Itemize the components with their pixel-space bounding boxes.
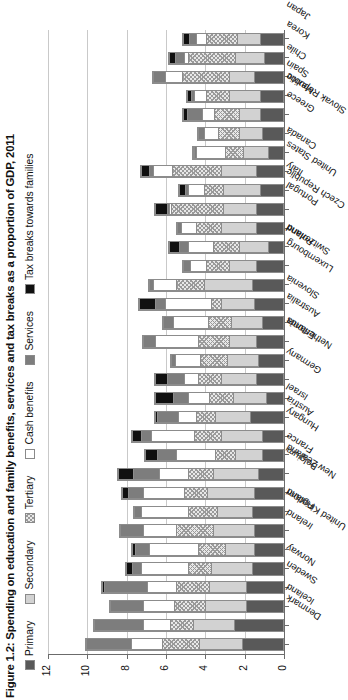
legend-label: Tax breaks towards families (24, 154, 35, 280)
bar-segment-services (179, 242, 189, 253)
bar-segment-primary (266, 393, 283, 404)
bar-segment-services (167, 374, 184, 385)
legend-item-tertiary: Tertiary (24, 476, 35, 524)
bar-segment-tax (118, 469, 134, 480)
bar-luxembourg (138, 298, 284, 311)
bar-segment-cash (178, 412, 195, 423)
bar-segment-tax (155, 393, 172, 404)
value-axis-tick-label: 12 (41, 665, 52, 676)
bar-segment-cash (196, 147, 225, 158)
legend-label: Cash benefits (24, 382, 35, 445)
legend-label: Tertiary (24, 476, 35, 510)
bar-segment-tertiary (204, 185, 223, 196)
bar-mexico (182, 108, 284, 121)
bar-iceland (93, 619, 284, 632)
category-label-korea: Korea (284, 19, 312, 42)
legend-item-primary: Primary (24, 621, 35, 670)
legend-swatch-cash-icon (25, 449, 35, 459)
bar-segment-cash (155, 336, 198, 347)
gridline (48, 30, 49, 654)
bar-france (117, 468, 284, 481)
bar-segment-tertiary (198, 336, 229, 347)
bar-segment-cash (188, 242, 213, 253)
bar-segment-tertiary (188, 469, 213, 480)
bar-segment-primary (260, 109, 283, 120)
bar-chile (152, 71, 284, 84)
bar-segment-tertiary (198, 374, 221, 385)
bar-segment-primary (254, 544, 283, 555)
bar-segment-secondary (229, 72, 254, 83)
bar-segment-cash (151, 431, 194, 442)
bar-denmark (85, 638, 284, 651)
bar-segment-cash (141, 507, 188, 518)
bar-segment-tertiary (174, 601, 205, 612)
category-axis-labels: DenmarkIcelandSwedenNorwayUnited Kingdom… (284, 30, 330, 654)
bar-segment-primary (256, 374, 283, 385)
legend-swatch-tax-icon (25, 284, 35, 294)
bar-segment-cash (153, 280, 176, 291)
bar-segment-cash (190, 261, 205, 272)
bar-segment-cash (188, 393, 209, 404)
bar-segment-primary (260, 91, 283, 102)
legend-item-services: Services (24, 311, 35, 364)
legend-swatch-primary-icon (25, 660, 35, 670)
bar-segment-services (86, 639, 131, 650)
bar-segment-secondary (213, 469, 258, 480)
bar-estonia (170, 354, 284, 367)
bar-segment-primary (254, 488, 283, 499)
legend-swatch-secondary-icon (25, 594, 35, 604)
bar-segment-primary (264, 53, 283, 64)
bar-segment-tax (155, 374, 167, 385)
bar-segment-cash (165, 299, 212, 310)
bar-czech-republic (168, 241, 284, 254)
bar-segment-primary (258, 469, 283, 480)
bar-segment-primary (268, 242, 283, 253)
bar-segment-services (175, 53, 185, 64)
bar-segment-cash (188, 185, 203, 196)
bar-segment-primary (258, 355, 283, 366)
gridline (127, 30, 128, 654)
bar-segment-secondary (193, 620, 234, 631)
legend-item-tax: Tax breaks towards families (24, 154, 35, 294)
bar-segment-services (157, 450, 176, 461)
value-axis-tick (284, 654, 285, 659)
bar-segment-secondary (233, 393, 266, 404)
legend-swatch-services-icon (25, 355, 35, 365)
bar-segment-tertiary (188, 507, 217, 518)
bar-segment-tertiary (196, 223, 221, 234)
bar-segment-secondary (229, 261, 256, 272)
bar-segment-services (189, 34, 197, 45)
bar-segment-services (104, 582, 147, 593)
bar-segment-primary (262, 128, 283, 139)
bar-segment-secondary (223, 204, 256, 215)
category-label-estonia: Estonia (284, 316, 317, 342)
bar-austria (131, 430, 284, 443)
bar-segment-services (94, 620, 143, 631)
bar-segment-services (134, 507, 142, 518)
bar-segment-tertiary (211, 299, 221, 310)
bar-segment-services (120, 525, 143, 536)
bar-segment-secondary (199, 639, 242, 650)
bar-segment-secondary (231, 317, 262, 328)
bar-segment-tax (169, 242, 179, 253)
legend-label: Primary (24, 621, 35, 656)
bar-segment-tertiary (196, 412, 215, 423)
bar-segment-tertiary (184, 488, 207, 499)
bar-segment-services (143, 336, 155, 347)
chart-plot-area: 024681012 (48, 30, 284, 654)
bar-segment-primary (252, 563, 283, 574)
page-title: Figure 1.2: Spending on education and fa… (4, 8, 16, 698)
bar-segment-services (157, 412, 178, 423)
bar-segment-primary (250, 412, 283, 423)
bar-spain (186, 90, 284, 103)
bar-segment-services (163, 317, 173, 328)
bar-segment-primary (268, 147, 283, 158)
bar-segment-services (128, 488, 144, 499)
bar-segment-secondary (221, 223, 256, 234)
value-axis-line (48, 654, 284, 655)
bar-finland (119, 524, 284, 537)
legend-label: Secondary (24, 540, 35, 589)
bar-segment-secondary (221, 431, 262, 442)
bar-segment-cash (149, 544, 198, 555)
